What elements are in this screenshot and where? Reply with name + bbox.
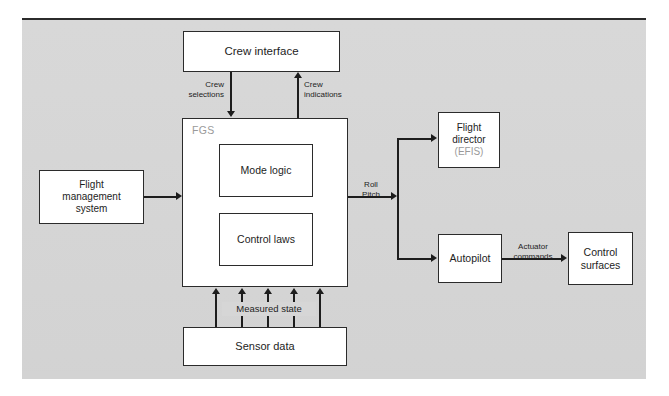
node-label: Sensor data xyxy=(235,340,294,353)
node-label: Control laws xyxy=(237,233,295,246)
edge-label-roll-pitch: Roll Pitch xyxy=(352,180,390,200)
edge-label-line1: Roll xyxy=(364,180,378,189)
node-label-line2: surfaces xyxy=(581,259,621,272)
measured-state-arrowhead-4 xyxy=(290,288,298,294)
measured-state-line-1 xyxy=(215,294,217,327)
diagram-canvas: Crew interface FGS Mode logic Control la… xyxy=(0,0,669,396)
edge-label-line2: commands xyxy=(513,252,552,261)
node-label: Crew interface xyxy=(224,44,298,58)
edge-crew-indications-arrowhead xyxy=(294,72,302,78)
node-label-line2: director xyxy=(452,134,485,146)
edge-fms-to-fgs-arrowhead xyxy=(176,192,182,200)
top-rule xyxy=(22,18,646,20)
measured-state-arrowhead-1 xyxy=(212,288,220,294)
edge-label-text: Measured state xyxy=(236,303,301,314)
measured-state-arrowhead-5 xyxy=(316,288,324,294)
node-label-line1: Flight xyxy=(457,122,481,134)
node-label-line1: Control xyxy=(584,246,618,259)
edge-to-autopilot-line xyxy=(397,258,432,260)
node-label: Mode logic xyxy=(241,164,292,177)
edge-to-autopilot-arrowhead xyxy=(431,254,437,262)
node-crew-interface[interactable]: Crew interface xyxy=(183,31,340,72)
edge-to-flight-director-line xyxy=(397,138,432,140)
node-flight-director[interactable]: Flight director (EFIS) xyxy=(438,112,500,168)
edge-label-line2: indications xyxy=(304,90,342,99)
edge-label-line2: Pitch xyxy=(362,190,380,199)
node-label: Autopilot xyxy=(450,252,491,265)
edge-label-crew-indications: Crew indications xyxy=(304,80,370,100)
node-autopilot[interactable]: Autopilot xyxy=(438,234,502,283)
measured-state-arrowhead-3 xyxy=(264,288,272,294)
node-sublabel-efis: (EFIS) xyxy=(455,146,484,158)
edge-fms-to-fgs-line xyxy=(144,196,176,198)
fgs-label: FGS xyxy=(192,124,215,137)
edge-label-line1: Crew xyxy=(205,80,224,89)
node-label-line1: Flight xyxy=(79,179,103,191)
edge-crew-selections-line xyxy=(230,72,232,112)
node-control-surfaces[interactable]: Control surfaces xyxy=(568,232,633,285)
node-label-line2: management xyxy=(62,191,120,203)
edge-crew-selections-arrowhead xyxy=(227,111,235,117)
edge-branch-trunk xyxy=(397,138,399,260)
edge-label-actuator-commands: Actuator commands xyxy=(504,242,562,262)
measured-state-line-5 xyxy=(319,294,321,327)
edge-crew-indications-line xyxy=(297,78,299,118)
node-sensor-data[interactable]: Sensor data xyxy=(183,327,347,366)
measured-state-arrowhead-2 xyxy=(238,288,246,294)
node-flight-management-system[interactable]: Flight management system xyxy=(39,170,144,224)
edge-label-line1: Actuator xyxy=(518,242,548,251)
node-mode-logic[interactable]: Mode logic xyxy=(219,144,313,197)
edge-to-flight-director-arrowhead xyxy=(431,134,437,142)
edge-label-measured-state: Measured state xyxy=(222,302,316,316)
edge-label-line1: Crew xyxy=(304,80,323,89)
node-label-line3: system xyxy=(76,203,108,215)
edge-label-line2: selections xyxy=(188,90,224,99)
edge-label-crew-selections: Crew selections xyxy=(170,80,224,100)
node-control-laws[interactable]: Control laws xyxy=(219,213,313,266)
